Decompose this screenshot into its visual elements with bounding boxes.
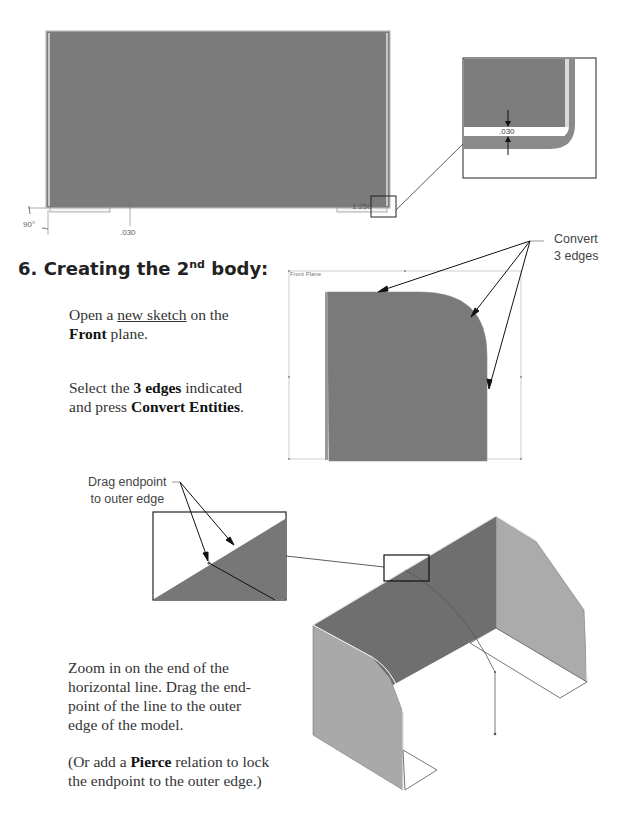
dimension-angle: 90° bbox=[23, 220, 35, 229]
step-number: 6. bbox=[18, 258, 37, 279]
convert-callout: Convert 3 edges bbox=[554, 231, 598, 265]
front-plane-figure bbox=[288, 241, 544, 461]
text: . bbox=[240, 398, 244, 415]
callout-line-2: 3 edges bbox=[554, 248, 598, 265]
instruction-pierce: (Or add a Pierce relation to lock the en… bbox=[68, 752, 283, 790]
callout-line-1: Convert bbox=[554, 231, 598, 248]
text: plane. bbox=[107, 325, 148, 342]
step-title-suffix: body: bbox=[205, 258, 268, 279]
dimension-thickness: .030 bbox=[120, 228, 136, 237]
top-view-figure bbox=[28, 31, 464, 235]
instruction-convert: Select the 3 edges indicated and press C… bbox=[69, 378, 259, 416]
detail-dimension: .030 bbox=[499, 127, 515, 136]
dimension-length: 1.250 bbox=[352, 202, 372, 211]
instruction-open-sketch: Open a new sketch on the Front plane. bbox=[69, 305, 259, 343]
new-sketch-link: new sketch bbox=[117, 306, 186, 323]
pierce-bold: Pierce bbox=[130, 753, 171, 770]
iso-model-figure bbox=[313, 516, 587, 790]
callout-line-2: to outer edge bbox=[88, 491, 167, 508]
convert-entities-bold: Convert Entities bbox=[131, 398, 240, 415]
text: Select the bbox=[69, 379, 134, 396]
drag-callout: Drag endpoint to outer edge bbox=[88, 474, 167, 508]
text: Open a bbox=[69, 306, 117, 323]
detail-view-figure bbox=[463, 58, 596, 178]
front-plane-bold: Front bbox=[69, 325, 107, 342]
text: on the bbox=[187, 306, 229, 323]
front-plane-label: Front Plane bbox=[290, 271, 321, 277]
edges-bold: 3 edges bbox=[134, 379, 182, 396]
text: (Or add a bbox=[68, 753, 130, 770]
step-title-sup: nd bbox=[189, 258, 205, 271]
callout-line-1: Drag endpoint bbox=[88, 474, 167, 491]
step-heading: 6. Creating the 2nd body: bbox=[18, 258, 268, 279]
instruction-drag-endpoint: Zoom in on the end of the horizontal lin… bbox=[68, 658, 273, 734]
iso-detail-figure bbox=[153, 482, 384, 600]
step-title-prefix: Creating the 2 bbox=[44, 258, 190, 279]
